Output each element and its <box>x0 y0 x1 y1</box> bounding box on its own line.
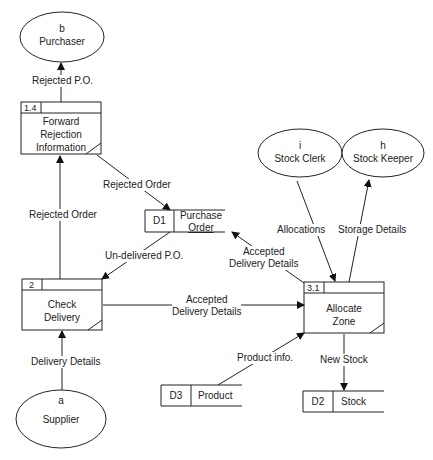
flow-label: Allocations <box>277 224 325 236</box>
flow-label: Product info. <box>237 352 293 364</box>
store-id: D3 <box>161 390 191 402</box>
store-name: Stock <box>341 396 366 408</box>
process-name: Check Delivery <box>22 298 102 324</box>
entity-name: Stock Clerk <box>258 152 342 165</box>
process-id: 2 <box>29 280 34 290</box>
entity-name: Stock Keeper <box>342 152 424 165</box>
entity-id: h <box>342 139 424 152</box>
entity-id: b <box>20 22 104 35</box>
entity-name: Supplier <box>16 413 106 426</box>
flow-label: Un-delivered P.O. <box>105 250 183 262</box>
flow-label: Storage Details <box>338 224 406 236</box>
store-name: Purchase Order <box>176 210 226 234</box>
store-id: D1 <box>145 215 174 227</box>
process-name: Allocate Zone <box>304 302 384 328</box>
entity-id: i <box>258 139 342 152</box>
entity-id: a <box>16 394 106 407</box>
process-id: 1.4 <box>24 103 37 113</box>
flow-label: Accepted Delivery Details <box>172 294 241 318</box>
entity-supplier: a Supplier <box>16 394 106 426</box>
flow-label: Accepted Delivery Details <box>229 246 298 270</box>
flow-label: New Stock <box>320 354 368 366</box>
process-name: Forward Rejection Information <box>21 115 101 154</box>
entity-name: Purchaser <box>20 35 104 48</box>
entity-purchaser: b Purchaser <box>20 22 104 48</box>
flow-label: Rejected Order <box>29 209 97 221</box>
process-id: 3.1 <box>307 283 320 293</box>
store-name: Product <box>198 390 232 402</box>
flow-label: Delivery Details <box>31 356 100 368</box>
store-id: D2 <box>303 396 333 408</box>
entity-stock-clerk: i Stock Clerk <box>258 139 342 165</box>
flow-label: Rejected P.O. <box>32 75 93 87</box>
entity-stock-keeper: h Stock Keeper <box>342 139 424 165</box>
flow-label: Rejected Order <box>103 179 171 191</box>
